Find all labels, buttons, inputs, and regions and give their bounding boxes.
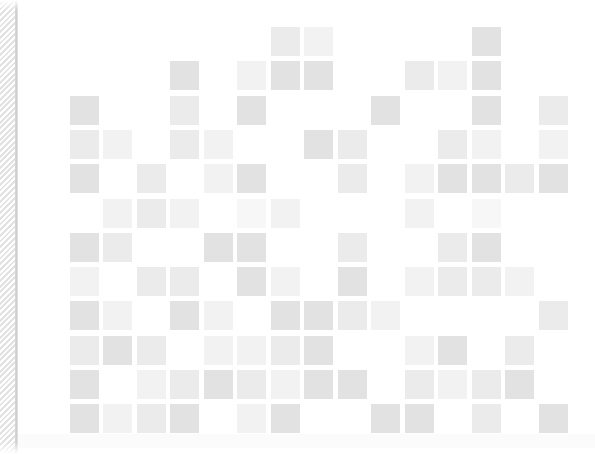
heatmap-cell xyxy=(204,164,233,193)
heatmap-cell xyxy=(271,61,300,90)
heatmap-cell xyxy=(70,96,99,125)
heatmap-cell xyxy=(405,336,434,365)
heatmap-cell xyxy=(539,130,568,159)
heatmap-cell xyxy=(137,370,166,399)
left-margin-edge-line xyxy=(15,0,18,454)
screenshot-root xyxy=(0,0,595,454)
heatmap-cell xyxy=(204,370,233,399)
heatmap-cell xyxy=(371,404,400,433)
heatmap-cell xyxy=(137,404,166,433)
heatmap-cell xyxy=(204,233,233,262)
heatmap-cell xyxy=(237,336,266,365)
heatmap-cell xyxy=(472,404,501,433)
heatmap-cell xyxy=(237,199,266,228)
heatmap-cell xyxy=(472,61,501,90)
heatmap-cell xyxy=(338,301,367,330)
heatmap-cell xyxy=(170,61,199,90)
heatmap-cell xyxy=(472,267,501,296)
heatmap-cell xyxy=(237,96,266,125)
heatmap-cell xyxy=(304,336,333,365)
heatmap-cell xyxy=(505,370,534,399)
heatmap-cell xyxy=(472,130,501,159)
heatmap-cell xyxy=(70,404,99,433)
heatmap-cell xyxy=(204,130,233,159)
heatmap-cell xyxy=(103,199,132,228)
heatmap-cell xyxy=(271,301,300,330)
heatmap-cell xyxy=(137,267,166,296)
heatmap-cell xyxy=(304,27,333,56)
heatmap-cell xyxy=(438,233,467,262)
heatmap-cell xyxy=(70,301,99,330)
heatmap-cell xyxy=(472,370,501,399)
heatmap-cell xyxy=(271,404,300,433)
heatmap-cell xyxy=(438,61,467,90)
heatmap-cell xyxy=(505,336,534,365)
left-margin-fade-bottom xyxy=(0,442,18,454)
heatmap-cell xyxy=(438,130,467,159)
heatmap-cell xyxy=(271,370,300,399)
heatmap-cell xyxy=(103,336,132,365)
heatmap-cell xyxy=(539,164,568,193)
heatmap-cell xyxy=(438,336,467,365)
heatmap-cell xyxy=(405,199,434,228)
heatmap-cell xyxy=(137,336,166,365)
heatmap-cell xyxy=(539,404,568,433)
heatmap-cell xyxy=(237,404,266,433)
heatmap-cell xyxy=(70,130,99,159)
heatmap-cell xyxy=(204,336,233,365)
heatmap-cell xyxy=(304,301,333,330)
heatmap-cell xyxy=(539,301,568,330)
heatmap-cell xyxy=(338,130,367,159)
heatmap-cell xyxy=(70,164,99,193)
heatmap-cell xyxy=(405,267,434,296)
heatmap-cell xyxy=(405,404,434,433)
heatmap-cell xyxy=(304,370,333,399)
heatmap-cell xyxy=(338,164,367,193)
heatmap-cell xyxy=(271,336,300,365)
left-margin-fade-top xyxy=(0,0,18,10)
heatmap-cell xyxy=(271,27,300,56)
heatmap-cell xyxy=(237,164,266,193)
heatmap-cell xyxy=(472,199,501,228)
heatmap-cell xyxy=(438,267,467,296)
heatmap-cell xyxy=(170,267,199,296)
heatmap-cell xyxy=(170,130,199,159)
heatmap-cell xyxy=(472,164,501,193)
heatmap-cell xyxy=(137,199,166,228)
heatmap-cell xyxy=(438,370,467,399)
heatmap-cell xyxy=(170,404,199,433)
heatmap-cell xyxy=(405,370,434,399)
heatmap-cell xyxy=(438,164,467,193)
heatmap-cell xyxy=(170,96,199,125)
heatmap-cell xyxy=(204,301,233,330)
heatmap-cell xyxy=(505,267,534,296)
heatmap-cell xyxy=(371,301,400,330)
heatmap-cell xyxy=(137,164,166,193)
heatmap-cell xyxy=(103,404,132,433)
heatmap-cell xyxy=(70,267,99,296)
heatmap-cell xyxy=(505,164,534,193)
heatmap-cell xyxy=(405,164,434,193)
heatmap-cell xyxy=(472,96,501,125)
heatmap-cell xyxy=(170,199,199,228)
heatmap-cell xyxy=(70,370,99,399)
heatmap-mosaic xyxy=(0,0,595,454)
heatmap-cell xyxy=(371,96,400,125)
heatmap-cell xyxy=(304,130,333,159)
heatmap-cell xyxy=(237,370,266,399)
heatmap-cell xyxy=(472,233,501,262)
heatmap-cell xyxy=(170,370,199,399)
heatmap-cell xyxy=(103,233,132,262)
heatmap-cell xyxy=(237,61,266,90)
heatmap-cell xyxy=(103,301,132,330)
heatmap-cell xyxy=(405,61,434,90)
heatmap-cell xyxy=(237,267,266,296)
heatmap-cell xyxy=(338,370,367,399)
heatmap-cell xyxy=(237,233,266,262)
heatmap-cell xyxy=(338,267,367,296)
heatmap-cell xyxy=(70,233,99,262)
heatmap-cell xyxy=(304,61,333,90)
heatmap-cell xyxy=(539,96,568,125)
heatmap-cell xyxy=(271,199,300,228)
heatmap-cell xyxy=(103,130,132,159)
